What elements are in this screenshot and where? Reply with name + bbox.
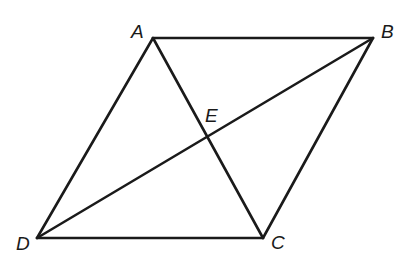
vertex-label-c: C (271, 233, 285, 252)
parallelogram-diagram (0, 0, 414, 267)
side-da (37, 38, 153, 238)
side-bc (263, 38, 373, 238)
vertex-label-d: D (16, 234, 30, 253)
diagonal-ac (153, 38, 263, 238)
intersection-label-e: E (205, 106, 218, 125)
diagonal-bd (37, 38, 373, 238)
vertex-label-b: B (381, 22, 394, 41)
vertex-label-a: A (131, 22, 144, 41)
